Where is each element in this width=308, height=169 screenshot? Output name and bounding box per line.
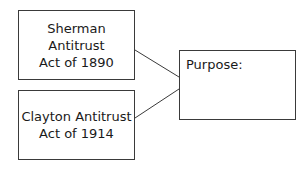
node-purpose: Purpose: [179,50,296,120]
edge-sherman-purpose [135,50,179,77]
node-label-line-2: Act of 1890 [19,54,134,71]
edge-clayton-purpose [135,89,179,118]
node-label-line-1: Clayton Antitrust [21,108,131,125]
node-purpose-label: Purpose: [186,57,243,72]
node-sherman-antitrust-act: Sherman Antitrust Act of 1890 [18,10,135,80]
node-label-line-1: Sherman Antitrust [19,20,134,54]
node-clayton-antitrust-act: Clayton Antitrust Act of 1914 [18,90,135,160]
node-label-line-2: Act of 1914 [21,125,131,142]
